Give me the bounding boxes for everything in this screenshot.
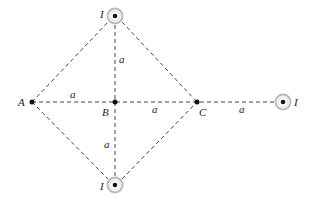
point-A-dot bbox=[30, 100, 35, 105]
line-A-bottom bbox=[32, 102, 108, 179]
dashed-lines bbox=[32, 22, 274, 179]
current-label-right: I bbox=[293, 96, 299, 108]
current-dot-icon bbox=[281, 100, 286, 105]
current-dot-icon bbox=[113, 183, 118, 188]
current-right bbox=[276, 95, 291, 110]
point-label-C: C bbox=[199, 106, 207, 118]
current-dot-icon bbox=[113, 14, 118, 19]
current-bottom bbox=[108, 178, 123, 193]
line-bottom-C bbox=[122, 102, 197, 179]
diagram-canvas: I I I A B C a a a a a bbox=[0, 0, 310, 200]
current-top bbox=[108, 9, 123, 24]
current-label-bottom: I bbox=[99, 180, 105, 192]
point-label-B: B bbox=[102, 106, 109, 118]
current-label-top: I bbox=[99, 8, 105, 20]
distance-label-B-C: a bbox=[152, 103, 158, 115]
line-top-C bbox=[122, 22, 197, 102]
point-C-dot bbox=[195, 100, 200, 105]
point-B-dot bbox=[113, 100, 118, 105]
point-label-A: A bbox=[17, 96, 25, 108]
distance-label-A-B: a bbox=[70, 88, 76, 100]
distance-label-C-right: a bbox=[239, 103, 245, 115]
distance-label-B-bottom: a bbox=[104, 138, 110, 150]
distance-label-top-B: a bbox=[119, 53, 125, 65]
